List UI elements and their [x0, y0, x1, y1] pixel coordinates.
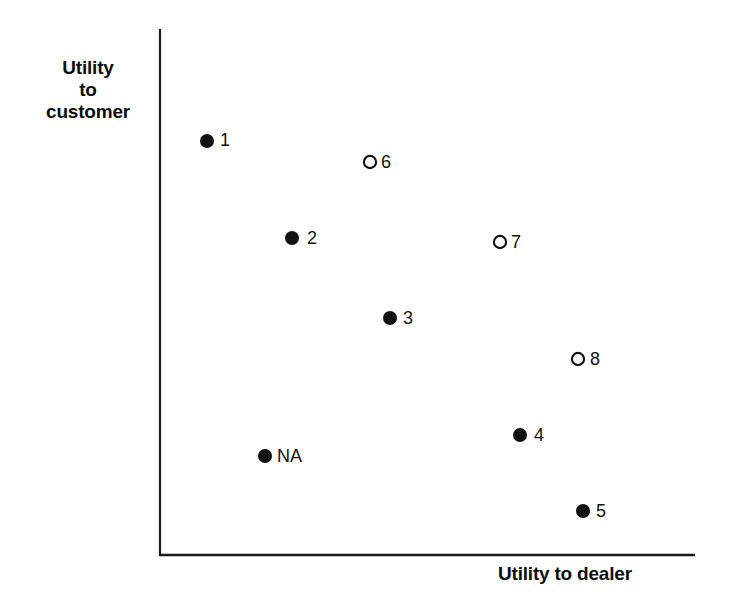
plot-area: 1627384NA5	[0, 0, 734, 609]
data-point-label-4: 4	[534, 425, 544, 445]
data-point-6	[364, 156, 376, 168]
data-point-label-5: 5	[596, 501, 606, 521]
data-point-3	[383, 311, 397, 325]
data-point-label-7: 7	[511, 232, 521, 252]
data-point-label-8: 8	[590, 349, 600, 369]
data-markers-group: 1627384NA5	[200, 130, 606, 521]
data-point-label-2: 2	[307, 228, 317, 248]
data-point-label-6: 6	[381, 152, 391, 172]
data-point-label-3: 3	[403, 308, 413, 328]
data-point-2	[285, 231, 299, 245]
data-point-8	[572, 353, 584, 365]
data-point-label-1: 1	[220, 130, 230, 150]
data-point-7	[494, 236, 506, 248]
data-point-5	[576, 504, 590, 518]
data-point-1	[200, 134, 214, 148]
data-point-na	[258, 449, 272, 463]
scatter-plot-figure: Utility to customer Utility to dealer 16…	[0, 0, 734, 609]
data-point-label-na: NA	[277, 446, 302, 466]
data-point-4	[513, 428, 527, 442]
